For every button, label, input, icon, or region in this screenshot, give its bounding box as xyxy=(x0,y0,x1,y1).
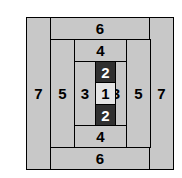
figure-canvas: 7 7 6 6 5 5 4 4 3 3 xyxy=(0,0,182,178)
cell-label: 4 xyxy=(96,129,104,144)
cell-left-outer-7: 7 xyxy=(26,17,51,170)
cell-center-1: 1 xyxy=(95,82,116,105)
nested-rectangle-diagram: 7 7 6 6 5 5 4 4 3 3 xyxy=(26,17,172,170)
cell-label: 5 xyxy=(134,86,142,101)
cell-label: 1 xyxy=(101,86,109,101)
cell-top-outer-6: 6 xyxy=(50,17,150,40)
cell-label: 3 xyxy=(81,86,89,101)
cell-left-mid-5: 5 xyxy=(50,39,75,148)
cell-label: 6 xyxy=(96,21,104,36)
cell-bottom-mid-4: 4 xyxy=(74,125,127,148)
cell-bottom-inner-2: 2 xyxy=(95,104,116,126)
cell-bottom-outer-6: 6 xyxy=(50,147,150,170)
cell-label: 2 xyxy=(101,108,109,123)
cell-left-inner-3: 3 xyxy=(74,61,96,126)
cell-top-mid-4: 4 xyxy=(74,39,127,62)
cell-label: 7 xyxy=(34,86,42,101)
cell-right-outer-7: 7 xyxy=(149,17,174,170)
cell-label: 5 xyxy=(58,86,66,101)
cell-label: 6 xyxy=(96,151,104,166)
cell-label: 2 xyxy=(101,65,109,80)
cell-label: 4 xyxy=(96,43,104,58)
cell-label: 7 xyxy=(157,86,165,101)
cell-right-mid-5: 5 xyxy=(126,39,151,148)
cell-top-inner-2: 2 xyxy=(95,61,116,83)
